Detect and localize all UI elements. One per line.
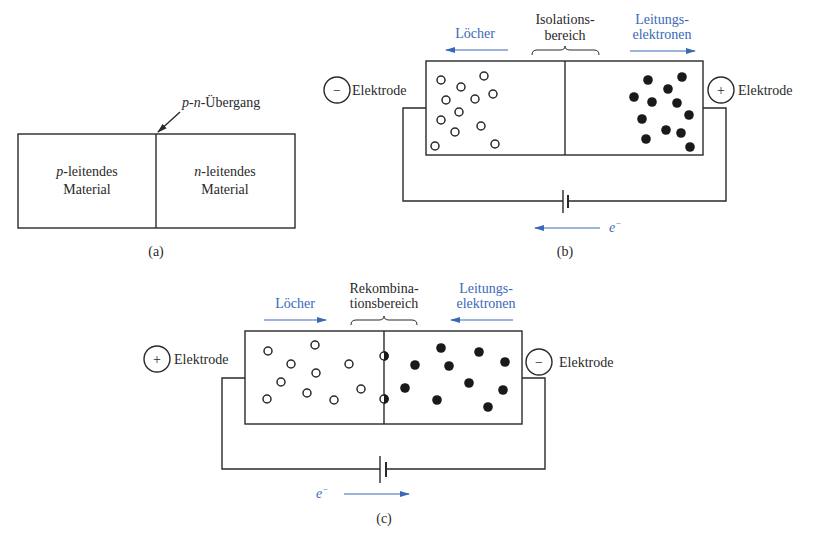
recombination-region-label-line2: tionsbereich: [350, 296, 418, 311]
electrode-sign: +: [153, 352, 161, 367]
n-region-label: n-leitendes: [194, 164, 255, 179]
electrode-sign: +: [717, 83, 725, 98]
electrode-sign: −: [535, 355, 543, 370]
left-electrode-b: − Elektrode: [324, 77, 406, 103]
right-electrode-b: + Elektrode: [708, 77, 792, 103]
holes-b: [431, 72, 499, 150]
holes-c: [263, 341, 365, 404]
recombination-brace: [351, 316, 417, 325]
caption-a: (a): [148, 244, 164, 260]
caption-b: (b): [557, 244, 574, 260]
battery-icon-c: [380, 456, 386, 483]
electrons-label-c-line2: elektronen: [456, 296, 515, 311]
pn-junction-diagram: p-n-Übergang p-leitendes Material n-leit…: [0, 0, 816, 537]
panel-a: p-n-Übergang p-leitendes Material n-leit…: [18, 94, 295, 260]
isolation-region-label: Isolations-: [535, 12, 594, 27]
right-electrode-c: − Elektrode: [526, 349, 613, 375]
electrode-sign: −: [333, 83, 341, 98]
n-region-label-line2: Material: [201, 182, 249, 197]
electron-flow-label-b: e−: [609, 218, 621, 235]
panel-c: Löcher Rekombina- tionsbereich Leitungs-…: [144, 281, 613, 527]
electrons-c: [400, 343, 510, 412]
left-electrode-c: + Elektrode: [144, 346, 228, 372]
p-region-label-line2: Material: [63, 182, 111, 197]
isolation-region-label-line2: bereich: [544, 28, 585, 43]
electron-flow-label-c: e−: [316, 484, 328, 501]
holes-label-c: Löcher: [275, 296, 315, 311]
isolation-brace: [532, 46, 599, 55]
electrode-label: Elektrode: [559, 355, 613, 370]
electrode-label: Elektrode: [352, 83, 406, 98]
battery-icon-b: [563, 190, 568, 213]
electrode-label: Elektrode: [738, 83, 792, 98]
electrons-label-b-line2: elektronen: [632, 27, 691, 42]
holes-label-b: Löcher: [455, 26, 495, 41]
recombination-region-label: Rekombina-: [349, 281, 419, 296]
electrode-label: Elektrode: [174, 352, 228, 367]
junction-pointer-arrow: [158, 112, 180, 132]
panel-b: Löcher Isolations- bereich Leitungs- ele…: [324, 12, 792, 260]
electrons-label-c: Leitungs-: [459, 281, 513, 296]
electrons-label-b: Leitungs-: [635, 12, 689, 27]
p-region-label: p-leitendes: [55, 164, 117, 179]
caption-c: (c): [376, 511, 392, 527]
junction-label: p-n-Übergang: [181, 94, 260, 110]
electrons-b: [629, 72, 695, 152]
